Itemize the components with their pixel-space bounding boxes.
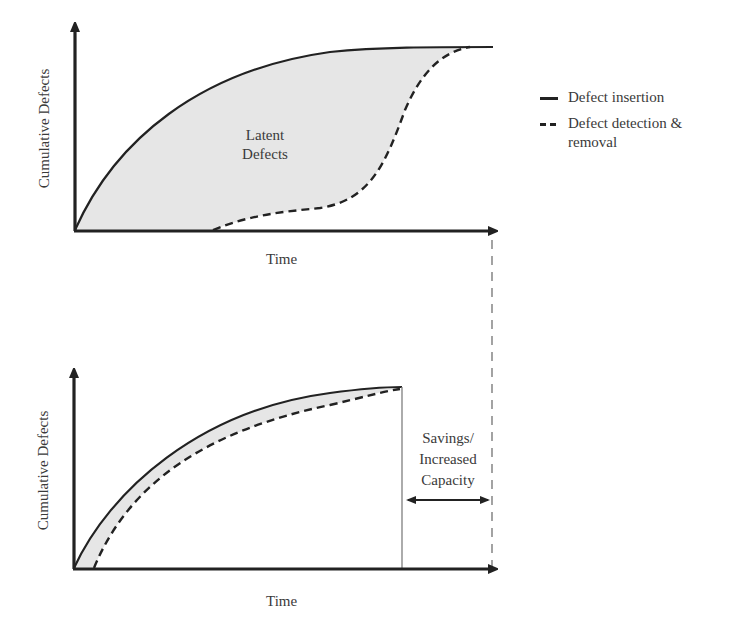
savings-annotation-line2: Increased (405, 449, 491, 470)
dashed-line-icon (540, 123, 556, 126)
latent-defects-label-line2: Defects (230, 145, 300, 164)
legend-item-defect-insertion: Defect insertion (538, 88, 738, 107)
solid-line-icon (540, 97, 558, 100)
latent-defects-label: Latent Defects (230, 126, 300, 164)
x-axis-label-bottom: Time (266, 592, 297, 610)
savings-annotation-line1: Savings/ (405, 428, 491, 449)
latent-defects-label-line1: Latent (230, 126, 300, 145)
legend-label-defect-insertion: Defect insertion (568, 89, 664, 105)
legend-item-defect-detection: Defect detection & removal (538, 114, 738, 152)
x-axis-label-top: Time (266, 250, 297, 268)
savings-annotation: Savings/ Increased Capacity (405, 428, 491, 491)
defect-insertion-curve-bottom (74, 387, 402, 568)
latent-defects-region-bottom (74, 387, 402, 568)
legend-label-defect-detection-line2: removal (568, 133, 738, 152)
legend: Defect insertion Defect detection & remo… (538, 88, 738, 159)
savings-annotation-line3: Capacity (405, 470, 491, 491)
y-axis-label-top: Cumulative Defects (36, 29, 53, 229)
legend-label-defect-detection-line1: Defect detection & (568, 114, 738, 133)
y-axis-label-bottom: Cumulative Defects (35, 371, 52, 571)
